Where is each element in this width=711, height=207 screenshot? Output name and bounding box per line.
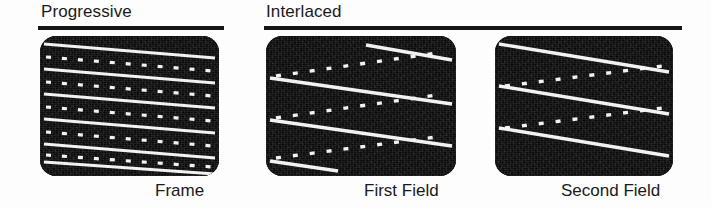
section-rule-interlaced — [264, 26, 682, 30]
scanline-dotted — [46, 57, 213, 71]
scanline-solid — [270, 161, 338, 171]
scanline-dotted — [505, 66, 663, 86]
scanline-solid — [44, 44, 215, 58]
scanline-group-second-field — [495, 36, 673, 176]
scanline-dotted — [276, 136, 444, 158]
scanline-solid — [44, 119, 215, 133]
scanline-solid — [499, 128, 669, 156]
section-heading-interlaced: Interlaced — [266, 2, 342, 22]
scanline-dotted — [505, 108, 663, 128]
panel-progressive-frame — [40, 36, 219, 176]
caption-frame: Frame — [155, 181, 204, 201]
scanline-solid — [44, 69, 215, 83]
panel-interlaced-first-field — [266, 36, 456, 176]
scanline-solid — [270, 78, 452, 104]
panel-interlaced-second-field — [495, 36, 673, 176]
caption-second-field: Second Field — [561, 181, 660, 201]
scanline-dotted — [46, 107, 213, 121]
section-heading-progressive: Progressive — [41, 2, 132, 22]
scanline-dotted — [46, 82, 213, 96]
interlacing-diagram: Progressive Interlaced — [0, 0, 711, 207]
section-rule-progressive — [38, 26, 224, 30]
scanline-group-progressive — [40, 36, 219, 176]
scanline-dotted — [46, 132, 213, 146]
scanline-solid — [44, 144, 215, 158]
scanline-solid — [44, 94, 215, 108]
scanline-solid — [366, 45, 452, 60]
caption-first-field: First Field — [364, 181, 439, 201]
scanline-solid — [44, 162, 215, 174]
scanline-solid — [270, 120, 452, 146]
scanline-group-first-field — [266, 36, 456, 176]
